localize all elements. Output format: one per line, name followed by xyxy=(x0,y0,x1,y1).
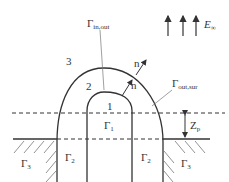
leader-gamma-in-out xyxy=(100,30,104,90)
label-gamma-in-out: Γin,out xyxy=(87,18,110,31)
label-gamma-3-left: Γ3 xyxy=(21,158,31,171)
label-gamma-out-sur: Γout,sur xyxy=(172,78,198,91)
label-gamma-1: Γ1 xyxy=(104,120,114,133)
label-region-2: 2 xyxy=(86,81,92,92)
label-region-3: 3 xyxy=(66,56,72,67)
label-gamma-3-right: Γ3 xyxy=(181,158,191,171)
label-normal-inner: n xyxy=(131,80,137,91)
field-arrows-icon xyxy=(168,16,196,36)
label-gamma-2-right: Γ2 xyxy=(141,152,151,165)
label-normal-outer: n xyxy=(134,58,140,69)
field-label: E∞ xyxy=(204,19,216,32)
leader-gamma-out-sur xyxy=(152,90,172,106)
diagram-canvas xyxy=(0,0,229,182)
label-gamma-2-left: Γ2 xyxy=(65,152,75,165)
label-depth-zp: Zp xyxy=(190,120,200,133)
label-region-1: 1 xyxy=(107,101,113,112)
